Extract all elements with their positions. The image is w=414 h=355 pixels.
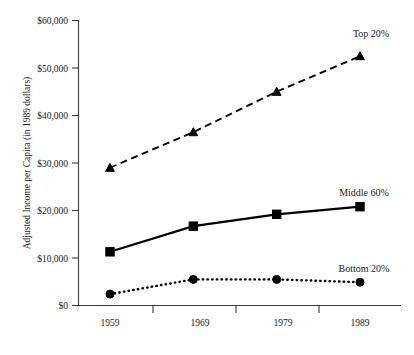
series-middle-60 <box>106 203 364 257</box>
x-tick-label-1979: 1979 <box>274 318 293 328</box>
y-tick-label-40000: $40,000 <box>37 111 68 121</box>
series-top-20 <box>106 52 365 172</box>
series-label-top-20: Top 20% <box>353 28 389 39</box>
chart-canvas: $60,000 $50,000 $40,000 $30,000 $20,000 … <box>0 0 414 355</box>
y-tick-label-10000: $10,000 <box>37 254 68 264</box>
x-tick-label-1989: 1989 <box>351 318 370 328</box>
series-line-top-20 <box>110 56 360 168</box>
y-tick-label-50000: $50,000 <box>37 64 68 74</box>
series-line-bottom-20 <box>110 279 360 294</box>
y-axis-ticks <box>72 21 79 306</box>
y-tick-label-20000: $20,000 <box>37 206 68 216</box>
y-axis-title: Adjusted Income per Capita (in 1989 doll… <box>22 77 33 250</box>
series-line-middle-60 <box>110 207 360 252</box>
x-tick-label-1959: 1959 <box>101 318 120 328</box>
income-per-capita-line-chart: $60,000 $50,000 $40,000 $30,000 $20,000 … <box>0 0 414 355</box>
series-bottom-20 <box>106 275 364 298</box>
y-tick-label-0: $0 <box>59 301 69 311</box>
y-tick-label-60000: $60,000 <box>37 16 68 26</box>
series-label-bottom-20: Bottom 20% <box>339 263 390 274</box>
x-axis-ticks <box>153 306 319 314</box>
y-tick-label-30000: $30,000 <box>37 159 68 169</box>
series-label-middle-60: Middle 60% <box>339 187 389 198</box>
x-tick-label-1969: 1969 <box>191 318 210 328</box>
